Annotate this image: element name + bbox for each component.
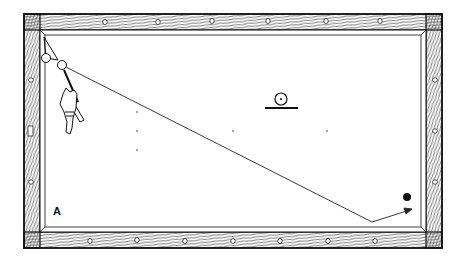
black-ball: [403, 193, 411, 201]
object-ball: [42, 54, 51, 63]
figure-label: A: [53, 205, 61, 217]
table-drawing: [0, 0, 462, 261]
cue-ball: [58, 61, 67, 70]
billiard-diagram: A: [0, 0, 462, 261]
